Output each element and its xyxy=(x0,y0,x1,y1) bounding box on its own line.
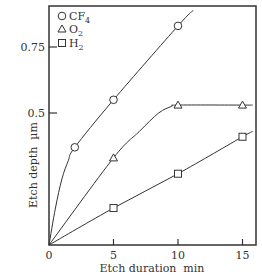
series-o2 xyxy=(49,101,253,245)
legend-label-h2: H2 xyxy=(69,37,84,52)
circle-marker-icon xyxy=(174,22,182,30)
y-tick-label: 0.5 xyxy=(28,107,46,120)
o2-line xyxy=(49,105,253,245)
x-tick-label: 0 xyxy=(46,249,53,262)
circle-marker-icon xyxy=(71,144,79,152)
legend-square-icon xyxy=(59,40,66,47)
x-tick-label: 15 xyxy=(236,249,250,262)
circle-marker-icon xyxy=(110,96,118,104)
legend: CF4O2H2 xyxy=(58,10,90,52)
y-tick-label: 0.75 xyxy=(21,41,46,54)
etch-depth-chart: 051015 0.50.75 CF4O2H2 Etch duration min… xyxy=(0,0,262,278)
square-marker-icon xyxy=(110,205,117,212)
legend-triangle-icon xyxy=(58,25,66,32)
x-tick-label: 5 xyxy=(110,249,117,262)
x-axis-ticks: 051015 xyxy=(46,239,250,262)
h2-line xyxy=(49,131,253,245)
square-marker-icon xyxy=(175,170,182,177)
x-tick-label: 10 xyxy=(171,249,185,262)
series-h2 xyxy=(49,131,253,245)
y-axis-title: Etch depth µm xyxy=(27,122,40,208)
legend-label-o2: O2 xyxy=(69,23,83,38)
legend-circle-icon xyxy=(58,12,66,20)
plot-frame xyxy=(49,6,256,245)
y-axis-ticks: 0.50.75 xyxy=(21,41,58,120)
square-marker-icon xyxy=(239,133,246,140)
x-axis-title: Etch duration min xyxy=(100,262,205,275)
